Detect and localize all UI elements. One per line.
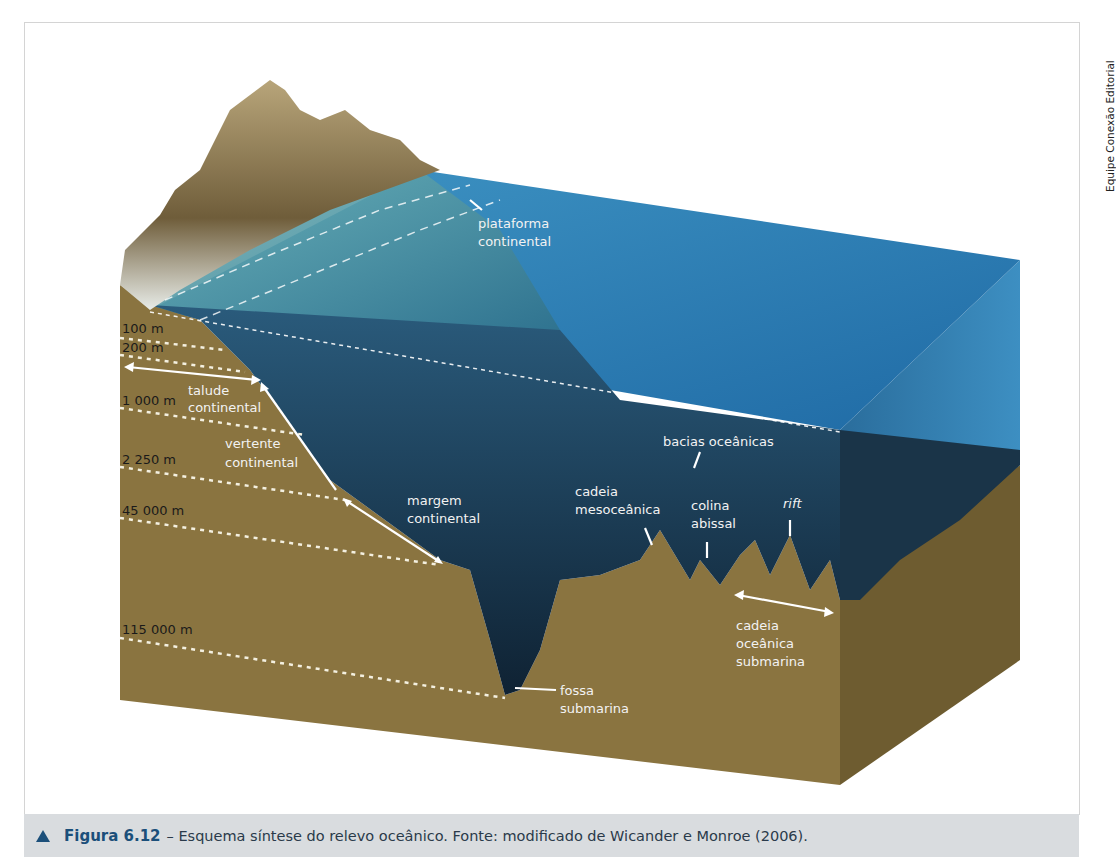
svg-text:100 m: 100 m bbox=[122, 321, 164, 336]
figure-number: Figura 6.12 bbox=[64, 827, 161, 845]
svg-text:continental: continental bbox=[188, 400, 261, 415]
triangle-icon bbox=[36, 830, 50, 842]
svg-text:continental: continental bbox=[407, 511, 480, 526]
svg-text:submarina: submarina bbox=[736, 654, 805, 669]
svg-text:fossa: fossa bbox=[560, 683, 594, 698]
svg-text:2 250 m: 2 250 m bbox=[122, 452, 176, 467]
svg-text:mesoceânica: mesoceânica bbox=[575, 502, 660, 517]
figure-caption: Figura 6.12 – Esquema síntese do relevo … bbox=[24, 814, 1079, 857]
svg-text:continental: continental bbox=[225, 455, 298, 470]
svg-text:abissal: abissal bbox=[691, 516, 736, 531]
svg-text:submarina: submarina bbox=[560, 701, 629, 716]
svg-text:talude: talude bbox=[188, 383, 229, 398]
svg-text:200 m: 200 m bbox=[122, 340, 164, 355]
svg-text:cadeia: cadeia bbox=[575, 484, 618, 499]
ocean-relief-diagram: 100 m 200 m 1 000 m 2 250 m 45 000 m 115… bbox=[0, 0, 1113, 814]
caption-text: – Esquema síntese do relevo oceânico. Fo… bbox=[167, 828, 808, 844]
svg-text:115 000 m: 115 000 m bbox=[122, 622, 193, 637]
svg-text:continental: continental bbox=[478, 234, 551, 249]
svg-text:oceânica: oceânica bbox=[736, 636, 794, 651]
svg-text:rift: rift bbox=[783, 496, 803, 511]
svg-text:margem: margem bbox=[407, 493, 462, 508]
svg-text:45 000 m: 45 000 m bbox=[122, 503, 184, 518]
svg-text:colina: colina bbox=[691, 498, 730, 513]
svg-text:cadeia: cadeia bbox=[736, 618, 779, 633]
svg-text:plataforma: plataforma bbox=[478, 216, 549, 231]
svg-text:bacias oceânicas: bacias oceânicas bbox=[663, 434, 774, 449]
svg-text:vertente: vertente bbox=[225, 436, 280, 451]
svg-text:1 000 m: 1 000 m bbox=[122, 393, 176, 408]
